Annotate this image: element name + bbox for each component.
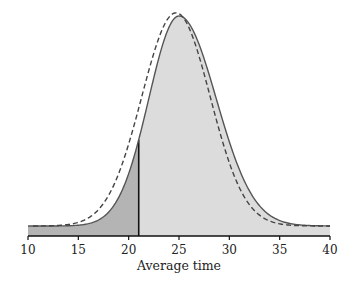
- x-tick-label: 30: [222, 243, 237, 257]
- shaded-region-right: [139, 16, 330, 236]
- shaded-region-left: [28, 140, 139, 236]
- x-axis: 10152025303540 Average time: [20, 236, 337, 273]
- x-tick-label: 15: [71, 243, 86, 257]
- x-tick-label: 10: [20, 243, 35, 257]
- plot-area: [28, 13, 330, 236]
- x-tick-label: 35: [272, 243, 287, 257]
- distribution-chart: 10152025303540 Average time: [0, 0, 357, 290]
- x-tick-label: 25: [171, 243, 186, 257]
- x-tick-label: 20: [121, 243, 136, 257]
- x-axis-ticks: 10152025303540: [20, 236, 337, 257]
- x-axis-title: Average time: [136, 258, 221, 273]
- x-tick-label: 40: [322, 243, 337, 257]
